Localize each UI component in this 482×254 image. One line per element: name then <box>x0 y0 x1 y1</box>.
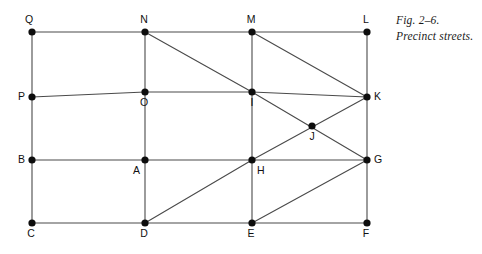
intersection-node-l <box>363 28 370 35</box>
intersection-node-c <box>28 219 35 226</box>
intersection-label-o: O <box>140 96 148 108</box>
intersection-node-f <box>363 219 370 226</box>
intersection-label-g: G <box>374 153 382 165</box>
street-segment <box>252 92 367 97</box>
figure-container: QNMLPOIKJBAHGCDEF Fig. 2–6. Precinct str… <box>0 0 482 254</box>
figure-caption: Fig. 2–6. Precinct streets. <box>396 12 473 45</box>
intersection-node-e <box>248 219 255 226</box>
intersection-node-g <box>363 156 370 163</box>
intersection-node-i <box>248 88 255 95</box>
intersection-node-j <box>308 122 315 129</box>
street-segment <box>145 160 252 223</box>
figure-title: Precinct streets. <box>396 28 473 44</box>
intersection-node-n <box>141 28 148 35</box>
street-segment <box>252 160 367 223</box>
intersection-label-e: E <box>247 227 254 239</box>
intersection-label-c: C <box>27 227 35 239</box>
intersection-node-a <box>141 156 148 163</box>
street-segment <box>252 32 367 97</box>
intersection-node-b <box>28 156 35 163</box>
street-segment <box>145 32 252 92</box>
intersection-labels-group: QNMLPOIKJBAHGCDEF <box>18 13 382 239</box>
intersection-label-f: F <box>363 227 369 239</box>
intersection-label-p: P <box>18 90 25 102</box>
intersection-nodes-group <box>28 28 370 226</box>
intersection-label-i: I <box>251 96 254 108</box>
intersection-node-k <box>363 93 370 100</box>
intersection-node-o <box>141 88 148 95</box>
intersection-node-h <box>248 156 255 163</box>
street-segment <box>32 92 145 97</box>
figure-number: Fig. 2–6. <box>396 12 473 28</box>
intersection-node-p <box>28 93 35 100</box>
intersection-label-d: D <box>140 227 148 239</box>
intersection-label-q: Q <box>25 13 33 25</box>
intersection-label-m: M <box>247 13 256 25</box>
intersection-label-h: H <box>257 164 265 176</box>
street-segments-group <box>32 32 367 223</box>
intersection-label-k: K <box>374 90 381 102</box>
intersection-label-n: N <box>140 13 148 25</box>
intersection-label-b: B <box>18 153 25 165</box>
intersection-label-l: L <box>363 13 369 25</box>
intersection-label-a: A <box>133 164 140 176</box>
intersection-label-j: J <box>309 130 314 142</box>
intersection-node-d <box>141 219 148 226</box>
intersection-node-m <box>248 28 255 35</box>
intersection-node-q <box>28 28 35 35</box>
